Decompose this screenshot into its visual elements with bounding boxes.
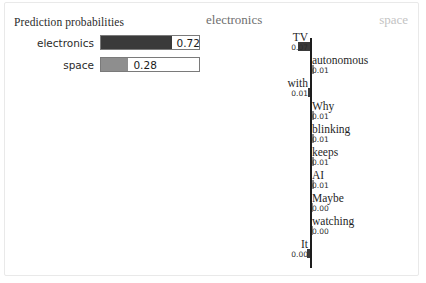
word-weight-value: 0.00 bbox=[312, 204, 329, 214]
probability-row-space: space 0.28 bbox=[14, 57, 214, 72]
probability-bar-space: 0.28 bbox=[100, 57, 200, 72]
class-header-electronics: electronics bbox=[206, 12, 262, 28]
word-row: watching0.00 bbox=[230, 218, 410, 240]
word-contributions-chart: TV0.07autonomous0.01with0.01Why0.01blink… bbox=[230, 34, 410, 274]
word-weight-value: 0.00 bbox=[291, 250, 308, 260]
word-weight-value: 0.01 bbox=[312, 135, 329, 145]
word-weight-value: 0.01 bbox=[291, 89, 308, 99]
probability-fill-space bbox=[101, 58, 128, 71]
word-row: TV0.07 bbox=[230, 34, 410, 56]
word-contribution-bar bbox=[308, 88, 310, 97]
word-weight-value: 0.00 bbox=[312, 227, 329, 237]
word-row: AI0.01 bbox=[230, 172, 410, 194]
word-weight-value: 0.01 bbox=[312, 112, 329, 122]
word-weight-value: 0.07 bbox=[291, 43, 308, 53]
prediction-probabilities-title: Prediction probabilities bbox=[14, 16, 214, 28]
probability-row-electronics: electronics 0.72 bbox=[14, 35, 214, 50]
word-row: It0.00 bbox=[230, 241, 410, 263]
prediction-probabilities-panel: Prediction probabilities electronics 0.7… bbox=[14, 16, 214, 72]
probability-label-space: space bbox=[14, 59, 100, 71]
word-row: autonomous0.01 bbox=[230, 57, 410, 79]
probability-label-electronics: electronics bbox=[14, 37, 100, 49]
probability-bar-electronics: 0.72 bbox=[100, 35, 200, 50]
class-header-space: space bbox=[379, 12, 408, 28]
probability-value-space: 0.28 bbox=[133, 58, 156, 73]
word-weight-value: 0.01 bbox=[312, 181, 329, 191]
probability-fill-electronics bbox=[101, 36, 172, 49]
lime-explanation-screenshot: Prediction probabilities electronics 0.7… bbox=[0, 0, 426, 283]
word-row: Maybe0.00 bbox=[230, 195, 410, 217]
word-row: blinking0.01 bbox=[230, 126, 410, 148]
word-row: Why0.01 bbox=[230, 103, 410, 125]
word-row: keeps0.01 bbox=[230, 149, 410, 171]
word-row: with0.01 bbox=[230, 80, 410, 102]
probability-value-electronics: 0.72 bbox=[177, 36, 200, 51]
word-weight-value: 0.01 bbox=[312, 66, 329, 76]
word-weight-value: 0.01 bbox=[312, 158, 329, 168]
